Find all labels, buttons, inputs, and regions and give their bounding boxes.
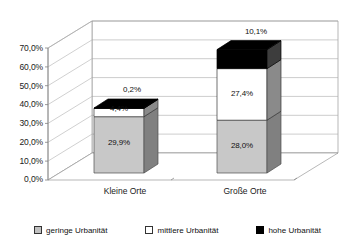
category-label-grosse-orte: Große Orte (205, 186, 285, 196)
data-label-kleine-geringe: 29,9% (89, 138, 149, 147)
data-label-grosse-mittlere: 27,4% (212, 89, 272, 98)
y-tick-label-70: 70,0% (2, 43, 43, 53)
y-tick-label-10: 10,0% (2, 156, 43, 166)
legend-swatch-gray-icon (34, 226, 42, 234)
legend-swatch-white-icon (145, 226, 153, 234)
legend-item-hohe-urbanitaet[interactable]: hohe Urbanität (256, 226, 320, 235)
data-label-grosse-geringe: 28,0% (212, 141, 272, 150)
y-tick-label-60: 60,0% (2, 62, 43, 72)
chart-legend: geringe Urbanität mittlere Urbanität hoh… (0, 222, 355, 238)
data-label-kleine-mittlere: 4,4% (89, 104, 149, 113)
category-label-kleine-orte: Kleine Orte (85, 186, 165, 196)
y-tick-label-50: 50,0% (2, 81, 43, 91)
y-tick-label-0: 0,0% (2, 174, 43, 184)
axis-ticks (45, 48, 48, 180)
legend-item-geringe-urbanitaet[interactable]: geringe Urbanität (34, 226, 107, 235)
legend-label-hohe-urbanitaet: hohe Urbanität (268, 226, 320, 235)
y-tick-label-40: 40,0% (2, 99, 43, 109)
chart-plot-area (0, 0, 355, 252)
floor (48, 153, 338, 180)
legend-label-mittlere-urbanitaet: mittlere Urbanität (157, 226, 218, 235)
legend-swatch-black-icon (256, 226, 264, 234)
bar-grosse-orte[interactable] (217, 41, 281, 173)
segment-hohe-urbanitaet-front (217, 50, 267, 69)
chart-3d-stacked-column: 70,0% 60,0% 50,0% 40,0% 30,0% 20,0% 10,0… (0, 0, 355, 252)
legend-label-geringe-urbanitaet: geringe Urbanität (46, 226, 107, 235)
y-tick-label-20: 20,0% (2, 137, 43, 147)
y-tick-label-30: 30,0% (2, 118, 43, 128)
legend-item-mittlere-urbanitaet[interactable]: mittlere Urbanität (145, 226, 218, 235)
data-label-grosse-hohe: 10,1% (226, 27, 286, 36)
data-label-kleine-hohe: 0,2% (102, 85, 162, 94)
